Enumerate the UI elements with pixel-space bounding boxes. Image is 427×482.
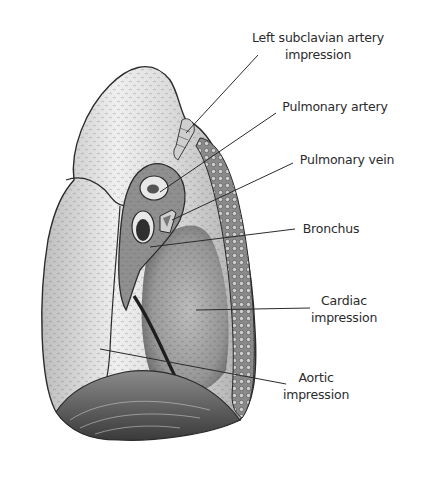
- label-line: Pulmonary vein: [297, 151, 397, 168]
- lung-illustration: [0, 0, 427, 482]
- label-pulmonary-artery: Pulmonary artery: [280, 98, 390, 115]
- leader-subclavian: [186, 55, 258, 133]
- label-line: Bronchus: [298, 220, 364, 237]
- label-line: Cardiac: [304, 292, 384, 309]
- label-cardiac-impression: Cardiac impression: [304, 292, 384, 326]
- label-line: Aortic: [276, 369, 356, 386]
- label-line: impression: [276, 386, 356, 403]
- label-line: Pulmonary artery: [280, 98, 390, 115]
- label-aortic-impression: Aortic impression: [276, 369, 356, 403]
- label-left-subclavian-artery-impression: Left subclavian artery impression: [238, 29, 398, 63]
- label-line: Left subclavian artery: [238, 29, 398, 46]
- label-bronchus: Bronchus: [298, 220, 364, 237]
- label-pulmonary-vein: Pulmonary vein: [297, 151, 397, 168]
- label-line: impression: [238, 46, 398, 63]
- label-line: impression: [304, 309, 384, 326]
